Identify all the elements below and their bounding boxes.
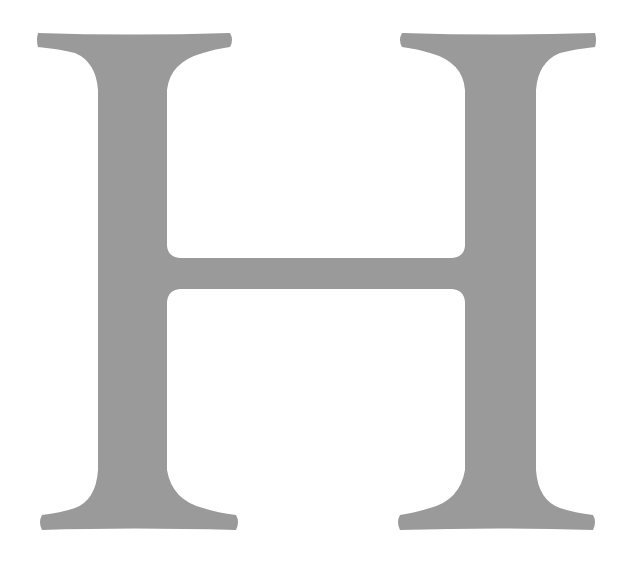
letter-h-shape	[0, 0, 629, 561]
letter-h-glyph: H	[0, 0, 629, 561]
letter-h-path	[37, 33, 596, 530]
